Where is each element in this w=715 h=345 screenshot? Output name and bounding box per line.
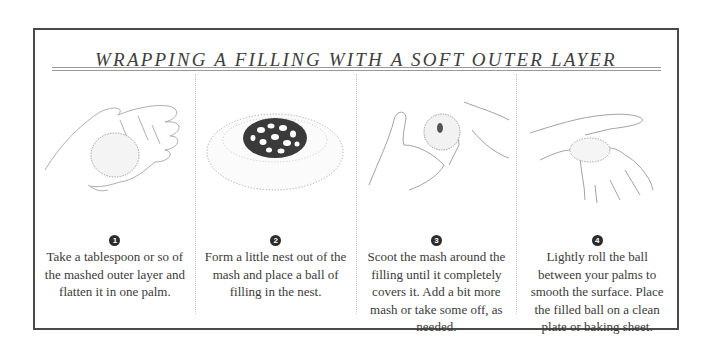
- step-4: 4 Lightly roll the ball between your pal…: [516, 74, 677, 314]
- step-number-badge: 1: [109, 235, 120, 246]
- step-number-badge: 2: [270, 235, 281, 246]
- step-3: 3 Scoot the mash around the filling unti…: [356, 74, 517, 314]
- step-1: 1 Take a tablespoon or so of the mashed …: [35, 74, 195, 314]
- rolling-ball-illustration: [517, 80, 677, 230]
- hand-icon: [40, 100, 190, 210]
- hands-icon: [364, 100, 509, 210]
- step-2: 2 Form a little nest out of the mash and…: [195, 74, 356, 314]
- double-rule-divider: [52, 67, 661, 71]
- nest-icon: [203, 110, 348, 200]
- palm-with-patty-illustration: [35, 80, 195, 230]
- step-caption: Lightly roll the ball between your palms…: [523, 248, 671, 336]
- step-caption: Form a little nest out of the mash and p…: [202, 248, 350, 301]
- instruction-panel: WRAPPING A FILLING WITH A SOFT OUTER LAY…: [33, 28, 679, 330]
- steps-row: 1 Take a tablespoon or so of the mashed …: [35, 74, 677, 314]
- step-number-badge: 4: [592, 235, 603, 246]
- hands-covering-filling-illustration: [357, 80, 517, 230]
- step-caption: Scoot the mash around the filling until …: [363, 248, 511, 336]
- step-number-badge: 3: [431, 235, 442, 246]
- palms-icon: [525, 105, 670, 205]
- step-caption: Take a tablespoon or so of the mashed ou…: [41, 248, 189, 301]
- nest-with-filling-illustration: [196, 80, 356, 230]
